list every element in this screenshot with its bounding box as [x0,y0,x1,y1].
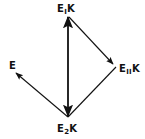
edge-right-bottom-line [68,67,116,117]
node-label-right: EIIK [119,64,140,74]
label-base: E [9,60,16,71]
vector-diagram: EIK E2K EIIK E [0,0,145,139]
node-label-bottom: E2K [57,124,77,134]
label-suffix: K [69,123,77,134]
edge-top-right-arrow [69,17,113,64]
label-suffix: K [132,63,140,74]
edge-bottom-left-arrow [16,73,68,117]
node-label-top: EIK [57,4,75,14]
label-suffix: K [67,3,75,14]
node-label-left: E [9,61,16,71]
